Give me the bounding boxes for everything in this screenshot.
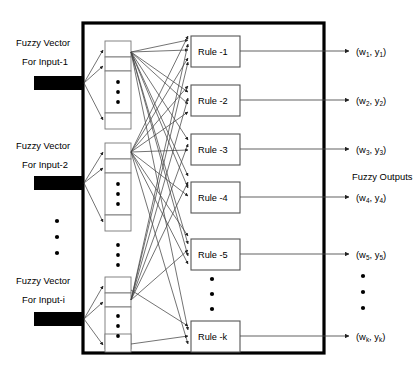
- output-ellipsis: [361, 274, 365, 310]
- output-label-1: (w1, y1): [356, 46, 386, 58]
- output-label-5: (w5, y5): [356, 249, 386, 261]
- output-5-close: ): [383, 249, 386, 260]
- output-k-close: ): [382, 331, 385, 342]
- svg-text:(w1, y1): (w1, y1): [356, 46, 386, 58]
- output-2-close: ): [383, 95, 386, 106]
- svg-text:(wk, yk): (wk, yk): [356, 331, 385, 343]
- output-label-3: (w3, y3): [356, 144, 386, 156]
- rule-3-label: Rule -3: [198, 145, 228, 155]
- rule-5-label: Rule -5: [198, 250, 228, 260]
- input-i-line2: For Input-i: [22, 294, 65, 305]
- rule-1-label: Rule -1: [198, 47, 228, 57]
- output-3-mid: , y: [369, 144, 379, 155]
- rule-box-5: Rule -5: [191, 239, 240, 270]
- output-2-open: (w: [356, 95, 366, 106]
- fuzzy-outputs-heading: Fuzzy Outputs: [352, 171, 413, 182]
- input-bar-i: [34, 312, 83, 326]
- output-4-close: ): [383, 192, 386, 203]
- membership-column-input-2: [105, 143, 131, 231]
- output-5-mid: , y: [369, 249, 379, 260]
- input-1-line2: For Input-1: [22, 56, 68, 67]
- output-4-open: (w: [356, 192, 366, 203]
- output-k-mid: , y: [369, 331, 379, 342]
- output-label-k: (wk, yk): [356, 331, 385, 343]
- rule-ellipsis: [210, 277, 214, 311]
- svg-text:(w5, y5): (w5, y5): [356, 249, 386, 261]
- output-5-open: (w: [356, 249, 366, 260]
- rule-box-3: Rule -3: [191, 134, 240, 165]
- membership-column-input-i: [105, 277, 131, 352]
- output-1-mid: , y: [369, 46, 379, 57]
- rule-2-label: Rule -2: [198, 96, 228, 106]
- output-label-2: (w2, y2): [356, 95, 386, 107]
- input-label-i: Fuzzy Vector For Input-i: [16, 275, 70, 305]
- input-bar-2: [34, 176, 83, 190]
- rule-k-label: Rule -k: [198, 332, 228, 342]
- svg-text:(w3, y3): (w3, y3): [356, 144, 386, 156]
- rule-box-1: Rule -1: [191, 36, 240, 67]
- input-to-column-arrows: [84, 50, 103, 345]
- output-3-close: ): [383, 144, 386, 155]
- output-2-mid: , y: [369, 95, 379, 106]
- membership-column-input-1: [105, 41, 131, 129]
- output-label-4: (w4, y4): [356, 192, 386, 204]
- output-1-close: ): [383, 46, 386, 57]
- output-1-open: (w: [356, 46, 366, 57]
- output-4-mid: , y: [369, 192, 379, 203]
- rule-box-2: Rule -2: [191, 85, 240, 116]
- membership-column-ellipsis: [116, 243, 120, 267]
- svg-text:(w2, y2): (w2, y2): [356, 95, 386, 107]
- output-k-open: (w: [356, 331, 366, 342]
- input-label-2: Fuzzy Vector For Input-2: [16, 140, 70, 170]
- rule-box-k: Rule -k: [191, 321, 240, 352]
- input-ellipsis: [55, 219, 59, 255]
- rule-output-lines: [240, 51, 349, 336]
- input-2-line1: Fuzzy Vector: [16, 140, 70, 151]
- input-bar-1: [34, 76, 83, 90]
- column-to-rule-links: [131, 36, 188, 344]
- input-label-1: Fuzzy Vector For Input-1: [16, 37, 70, 67]
- input-2-line2: For Input-2: [22, 159, 68, 170]
- input-i-line1: Fuzzy Vector: [16, 275, 70, 286]
- input-1-line1: Fuzzy Vector: [16, 37, 70, 48]
- svg-text:(w4, y4): (w4, y4): [356, 192, 386, 204]
- output-3-open: (w: [356, 144, 366, 155]
- rule-box-4: Rule -4: [191, 182, 240, 213]
- figure-root: Fuzzy Vector For Input-1 Fuzzy Vector Fo…: [0, 0, 420, 373]
- rule-4-label: Rule -4: [198, 193, 228, 203]
- fuzzy-inference-diagram: Fuzzy Vector For Input-1 Fuzzy Vector Fo…: [0, 0, 420, 373]
